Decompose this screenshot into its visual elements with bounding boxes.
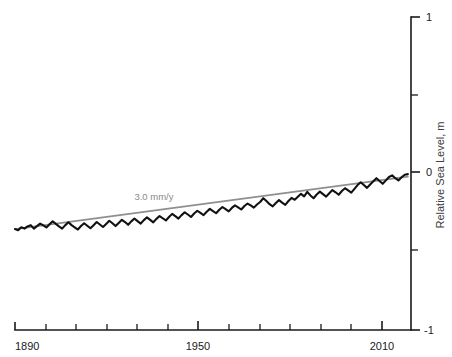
y-tick-label-minus1: -1: [424, 324, 434, 336]
chart-background: [0, 0, 452, 357]
x-tick-label-1950: 1950: [186, 340, 210, 352]
y-tick-label-0: 0: [426, 166, 432, 178]
trend-rate-annotation: 3.0 mm/y: [134, 191, 173, 202]
y-axis-title: Relative Sea Level, m: [434, 122, 446, 229]
sea-level-chart-figure: 1890 1950 2010 1 0 -1 Relative Sea Level…: [0, 0, 452, 357]
y-tick-label-1: 1: [426, 11, 432, 23]
x-tick-label-1890: 1890: [15, 340, 39, 352]
x-tick-label-2010: 2010: [370, 340, 394, 352]
chart-svg: 1890 1950 2010 1 0 -1 Relative Sea Level…: [0, 0, 452, 357]
